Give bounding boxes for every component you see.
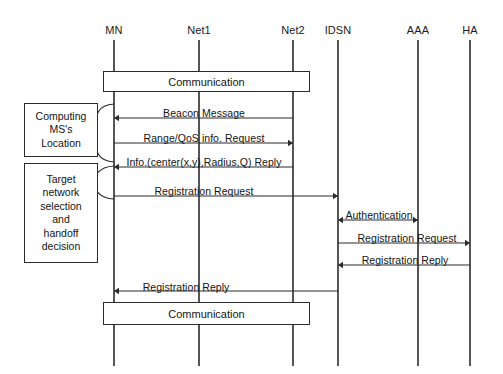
message-label-info-reply: Info.(center(x,y),Radius,Q) Reply	[126, 156, 281, 168]
communication-box-bottom: Communication	[103, 302, 310, 325]
message-label-beacon-message: Beacon Message	[163, 107, 245, 119]
phase-box-handoff-decision-text: Targetnetworkselectionandhandoffdecision	[40, 173, 81, 254]
lifeline-label-mn: MN	[105, 24, 122, 36]
phase-box-computing-location: ComputingMS'sLocation	[24, 103, 98, 157]
message-label-registration-request-mn-idsn: Registration Request	[154, 185, 253, 197]
sequence-diagram-canvas: MN Net1 Net2 IDSN AAA HA Communication C…	[0, 0, 503, 374]
message-label-registration-reply-idsn-mn: Registration Reply	[143, 281, 230, 293]
phase-box-handoff-decision: Targetnetworkselectionandhandoffdecision	[24, 163, 98, 263]
communication-box-top: Communication	[103, 71, 310, 92]
lifeline-label-aaa: AAA	[407, 24, 429, 36]
message-label-registration-reply-ha-idsn: Registration Reply	[362, 254, 449, 266]
lifeline-label-ha: HA	[462, 24, 477, 36]
phase-box-computing-location-text: ComputingMS'sLocation	[36, 110, 87, 151]
lifeline-label-net1: Net1	[187, 24, 211, 36]
lifeline-label-net2: Net2	[281, 24, 305, 36]
message-label-registration-request-idsn-ha: Registration Request	[357, 232, 456, 244]
message-label-range-qos-request: Range/QoS info. Request	[144, 132, 265, 144]
message-label-authentication: Authentication	[345, 209, 412, 221]
lifeline-label-idsn: IDSN	[325, 24, 352, 36]
